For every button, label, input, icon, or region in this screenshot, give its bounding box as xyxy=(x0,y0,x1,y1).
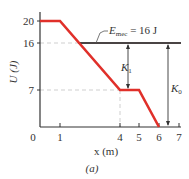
y-axis-title: U (J) xyxy=(7,60,20,83)
x-tick-1: 1 xyxy=(57,131,63,143)
y-tick-16: 16 xyxy=(23,37,35,49)
potential-energy-curve xyxy=(40,21,159,127)
emec-label: Emec = 16 J xyxy=(108,24,158,38)
k0-arrow xyxy=(166,44,170,126)
x-axis-title: x (m) xyxy=(94,145,118,158)
emec-leader-line xyxy=(100,31,108,33)
y-tick-7: 7 xyxy=(29,84,35,96)
k0-label: K0 xyxy=(170,82,182,96)
x-tick-4: 4 xyxy=(117,131,123,143)
x-tick-6: 6 xyxy=(156,131,162,143)
y-tick-20: 20 xyxy=(23,15,35,27)
x-tick-5: 5 xyxy=(136,131,142,143)
x-tick-7: 7 xyxy=(176,131,182,143)
figure-caption: (a) xyxy=(86,162,99,175)
k1-label: K1 xyxy=(120,61,132,75)
energy-chart: 20 16 7 0 1 4 5 6 7 U (J) x (m) (a) Emec… xyxy=(0,0,189,179)
x-tick-0: 0 xyxy=(30,131,36,143)
